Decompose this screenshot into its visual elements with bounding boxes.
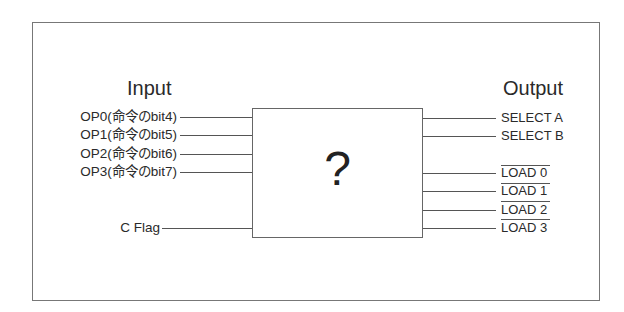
output-wire [423, 118, 496, 119]
output-wire [423, 136, 496, 137]
output-select-b: SELECT B [501, 129, 564, 143]
output-load-3: LOAD 3 [501, 221, 547, 235]
output-heading: Output [503, 77, 563, 100]
input-label: OP1(命令のbit5) [80, 128, 177, 142]
unknown-logic-block: ? [252, 108, 423, 238]
input-label: C Flag [120, 221, 160, 235]
output-wire [423, 173, 496, 174]
input-wire [180, 135, 252, 136]
input-label: OP3(命令のbit7) [80, 165, 177, 179]
input-label: OP2(命令のbit6) [80, 147, 177, 161]
output-wire [423, 191, 496, 192]
input-label: OP0(命令のbit4) [80, 110, 177, 124]
output-wire [423, 210, 496, 211]
input-wire [162, 228, 252, 229]
input-wire [180, 117, 252, 118]
output-load-0: LOAD 0 [501, 166, 547, 180]
question-mark: ? [253, 141, 422, 196]
input-wire [180, 154, 252, 155]
output-load-1: LOAD 1 [501, 184, 547, 198]
output-load-2: LOAD 2 [501, 203, 547, 217]
output-select-a: SELECT A [501, 111, 563, 125]
output-wire [423, 228, 496, 229]
input-wire [180, 172, 252, 173]
input-heading: Input [127, 77, 171, 100]
